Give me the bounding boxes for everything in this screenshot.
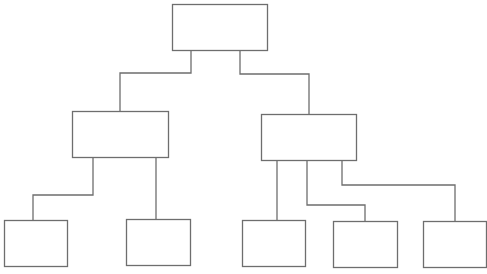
org-chart-diagram [0,0,487,274]
node-box [243,221,306,267]
node-leaf-2 [127,220,191,266]
connector-mid-right-to-leaf-5 [342,160,455,221]
node-mid-right [262,115,357,161]
node-mid-left [73,112,169,158]
node-box [424,222,487,268]
node-layer [5,5,487,268]
node-box [334,222,398,268]
diagram-canvas [0,0,487,274]
connector-mid-left-to-leaf-1 [33,157,93,220]
node-box [127,220,191,266]
node-leaf-1 [5,221,68,267]
node-root [173,5,268,51]
node-box [5,221,68,267]
node-leaf-5 [424,222,487,268]
node-box [262,115,357,161]
node-leaf-4 [334,222,398,268]
node-box [73,112,169,158]
connector-root-to-mid-right [240,50,309,114]
connector-root-to-mid-left [120,50,191,111]
node-box [173,5,268,51]
connector-mid-right-to-leaf-4 [307,160,365,221]
node-leaf-3 [243,221,306,267]
